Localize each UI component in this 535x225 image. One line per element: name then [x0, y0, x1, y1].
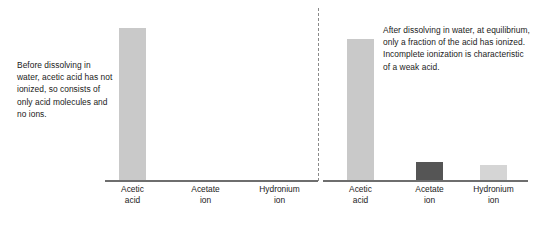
tick-label-before-acetate-ion: Acetate ion [171, 184, 241, 207]
tick-label-after-acetate-ion: Acetate ion [395, 184, 465, 207]
tick-line-2: ion [395, 195, 465, 206]
tick-line-1: Acetate [191, 184, 219, 194]
tick-line-1: Hydronium [473, 184, 514, 194]
bar-after-acetic-acid [347, 39, 374, 180]
tick-line-1: Acetic [121, 184, 144, 194]
annotation-before-dissolving: Before dissolving in water, acetic acid … [17, 59, 113, 120]
bar-after-hydronium-ion [480, 165, 507, 180]
bar-before-acetic-acid [119, 28, 146, 180]
tick-label-after-acetic-acid: Acetic acid [326, 184, 396, 207]
tick-line-2: ion [245, 195, 315, 206]
tick-label-before-hydronium-ion: Hydronium ion [245, 184, 315, 207]
axis-line-before [105, 180, 318, 182]
axis-line-after [323, 180, 528, 182]
bar-after-acetate-ion [416, 162, 443, 180]
weak-acid-ionization-figure: Before dissolving in water, acetic acid … [0, 0, 535, 225]
annotation-after-dissolving: After dissolving in water, at equilibriu… [383, 24, 533, 73]
tick-label-before-acetic-acid: Acetic acid [98, 184, 168, 207]
panel-before-dissolving: Before dissolving in water, acetic acid … [0, 0, 318, 225]
tick-line-1: Hydronium [259, 184, 300, 194]
tick-line-1: Acetic [349, 184, 372, 194]
tick-line-2: acid [98, 195, 168, 206]
tick-line-2: ion [459, 195, 529, 206]
tick-line-1: Acetate [415, 184, 443, 194]
tick-line-2: acid [326, 195, 396, 206]
tick-line-2: ion [171, 195, 241, 206]
tick-label-after-hydronium-ion: Hydronium ion [459, 184, 529, 207]
